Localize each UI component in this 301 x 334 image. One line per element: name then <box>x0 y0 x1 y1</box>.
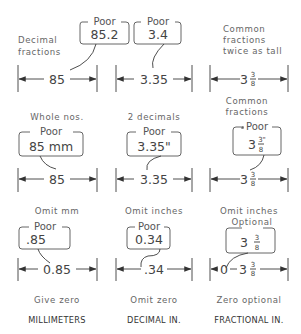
callout-value: 3.35" <box>137 139 171 154</box>
callout-tag: Optional <box>231 217 272 227</box>
caption-common-fractions-line2: fractions <box>226 107 269 117</box>
caption-zero-optional: Zero optional <box>216 295 281 305</box>
dimension-numerator: 3 <box>251 171 255 179</box>
dimension-denominator: 8 <box>251 80 255 88</box>
column-label-millimeters: MILLIMETERS <box>28 315 86 325</box>
caption-2-decimals: 2 decimals <box>128 112 181 122</box>
callout-tag: Poor <box>40 126 63 137</box>
dimension-0-3-3-8: 0 3 3 8 <box>210 258 288 281</box>
note-decimal-fractions-line1: Decimal <box>18 35 57 45</box>
dimension-value: 85 <box>49 172 65 187</box>
dimension-numerator: 3 <box>251 71 255 79</box>
dimension-85: 85 <box>18 65 97 92</box>
callout-poor-3-4: Poor 3.4 <box>134 16 181 68</box>
note-common-fractions-line1: Common <box>223 24 265 34</box>
callout-poor-85: Poor .85 <box>19 221 70 263</box>
callout-tag: Poor <box>246 121 269 132</box>
callout-tag: Poor <box>138 221 161 232</box>
caption-common-fractions-line1: Common <box>226 96 268 106</box>
note-common-fractions-line3: twice as tall <box>223 46 282 56</box>
callout-tag: Poor <box>34 221 57 232</box>
dimension-3-35: 3.35 <box>116 65 192 92</box>
dimension-denominator: 8 <box>251 270 255 278</box>
row-2: Poor 85 mm Poor 3.35" Poor 3 3" 8 <box>18 121 288 216</box>
callout-value: 3.4 <box>148 27 168 42</box>
dimension-value: .34 <box>144 262 164 277</box>
dimension-value: 3.35 <box>140 72 168 87</box>
column-label-fractional-in: FRACTIONAL IN. <box>214 315 283 325</box>
dimension-85: 85 <box>18 168 97 192</box>
caption-omit-mm: Omit mm <box>35 206 80 216</box>
dimension-denominator: 8 <box>251 180 255 188</box>
caption-omit-inches: Omit inches <box>125 206 183 216</box>
callout-poor-85-mm: Poor 85 mm <box>19 126 83 169</box>
dimension-numerator: 3 <box>251 261 255 269</box>
callout-numerator: 3 <box>255 234 259 242</box>
dimension-value: 0.85 <box>43 262 71 277</box>
callout-poor-3-3-8-in: Poor 3 3" 8 <box>233 121 281 170</box>
callout-numerator: 3" <box>258 136 266 144</box>
callout-value: 85 mm <box>29 139 73 154</box>
dimension-whole: 3 <box>240 72 248 87</box>
dimension-whole: 3 <box>239 262 247 277</box>
caption-whole-nos: Whole nos. <box>30 112 84 122</box>
dimension-3-3-8: 3 3 8 <box>210 65 288 92</box>
dimension-prefix: 0 <box>220 262 228 277</box>
dimensioning-diagram: Decimal fractions Poor 85.2 Poor 3.4 Com… <box>0 0 301 334</box>
row-1: Decimal fractions Poor 85.2 Poor 3.4 Com… <box>18 16 288 122</box>
callout-denominator: 8 <box>255 244 259 252</box>
callout-value: 0.34 <box>135 232 163 247</box>
dimension-value: 3.35 <box>140 172 168 187</box>
callout-denominator: 8 <box>259 146 263 154</box>
dimension-value: 85 <box>49 72 65 87</box>
callout-poor-85-2: Poor 85.2 <box>70 16 129 70</box>
callout-value: 85.2 <box>91 27 119 42</box>
dimension-34: .34 <box>116 258 192 281</box>
dimension-3-35: 3.35 <box>116 168 192 192</box>
caption-omit-zero: Omit zero <box>130 295 177 305</box>
row-3: Poor .85 Poor 0.34 Optional 3 3 8 <box>18 217 288 305</box>
caption-give-zero: Give zero <box>34 295 80 305</box>
column-labels: MILLIMETERS DECIMAL IN. FRACTIONAL IN. <box>28 315 283 325</box>
callout-value: .85 <box>26 232 46 247</box>
caption-omit-inches-fractional: Omit inches <box>220 206 278 216</box>
callout-tag: Poor <box>147 16 170 27</box>
note-common-fractions-line2: fractions <box>223 35 266 45</box>
dimension-whole: 3 <box>240 172 248 187</box>
callout-whole: 3 <box>240 235 248 250</box>
callout-poor-3-35-in: Poor 3.35" <box>127 126 181 170</box>
callout-whole: 3 <box>248 137 256 152</box>
callout-tag: Poor <box>143 126 166 137</box>
column-label-decimal-in: DECIMAL IN. <box>127 315 181 325</box>
callout-poor-0-34: Poor 0.34 <box>127 221 170 267</box>
callout-tag: Poor <box>93 16 116 27</box>
dimension-0-85: 0.85 <box>18 258 97 281</box>
dimension-3-3-8: 3 3 8 <box>210 168 288 192</box>
note-decimal-fractions-line2: fractions <box>18 47 61 57</box>
